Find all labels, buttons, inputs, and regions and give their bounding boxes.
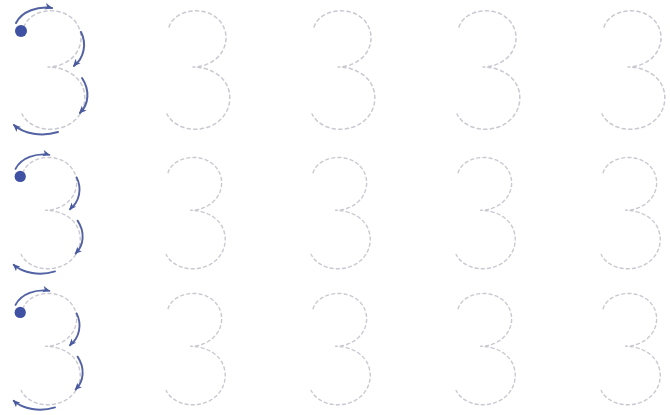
dashed-numeral-3-outline: [456, 293, 515, 404]
tracing-cell-3-1[interactable]: [8, 288, 95, 412]
arrow-head-icon: [11, 262, 21, 271]
start-point-dot: [15, 171, 26, 182]
top-arrow: [16, 150, 51, 169]
lower-bowl-arrow: [77, 78, 88, 116]
dashed-numeral-3-outline: [457, 11, 520, 129]
dashed-numeral-3-outline: [167, 11, 230, 129]
arrow-head-icon: [11, 398, 21, 407]
tracing-cell-1-2[interactable]: [153, 5, 245, 137]
dashed-numeral-3-outline: [22, 11, 85, 129]
tracing-cell-2-5[interactable]: [588, 152, 670, 276]
tracing-cell-3-5[interactable]: [588, 288, 670, 412]
tracing-cell-1-3[interactable]: [298, 5, 390, 137]
tracing-cell-2-2[interactable]: [153, 152, 240, 276]
dashed-numeral-3-outline: [21, 293, 80, 404]
tracing-cell-1-5[interactable]: [588, 5, 670, 137]
dashed-numeral-3-outline: [601, 293, 660, 404]
bottom-arrow: [11, 262, 55, 274]
dashed-numeral-3-outline: [601, 157, 660, 268]
bottom-arrow: [11, 398, 55, 410]
dashed-numeral-3-outline: [311, 293, 370, 404]
start-point-dot: [15, 307, 26, 318]
dashed-numeral-3-outline: [602, 11, 665, 129]
top-arrow: [16, 3, 53, 23]
top-arrow: [16, 286, 51, 305]
dashed-numeral-3-outline: [311, 157, 370, 268]
tracing-cell-3-2[interactable]: [153, 288, 240, 412]
tracing-cell-2-3[interactable]: [298, 152, 385, 276]
tracing-cell-1-4[interactable]: [443, 5, 535, 137]
lower-bowl-arrow: [72, 221, 82, 257]
tracing-cell-3-3[interactable]: [298, 288, 385, 412]
bottom-arrow: [11, 122, 58, 135]
dashed-numeral-3-outline: [456, 157, 515, 268]
tracing-cell-2-4[interactable]: [443, 152, 530, 276]
tracing-cell-1-1[interactable]: [8, 5, 100, 137]
start-point-dot: [15, 25, 27, 37]
tracing-worksheet: [0, 0, 670, 415]
dashed-numeral-3-outline: [166, 157, 225, 268]
tracing-cell-2-1[interactable]: [8, 152, 95, 276]
arrow-head-icon: [11, 122, 21, 132]
dashed-numeral-3-outline: [21, 157, 80, 268]
tracing-cell-3-4[interactable]: [443, 288, 530, 412]
dashed-numeral-3-outline: [312, 11, 375, 129]
lower-bowl-arrow: [72, 357, 82, 393]
dashed-numeral-3-outline: [166, 293, 225, 404]
